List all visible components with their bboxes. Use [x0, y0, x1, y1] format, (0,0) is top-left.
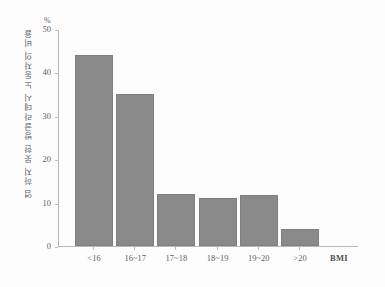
y-axis-tick-label: 50 — [43, 24, 52, 34]
y-axis-tick: 20 — [28, 160, 58, 161]
y-axis-tick-label: 10 — [43, 198, 52, 208]
x-axis-tick-mark — [134, 246, 135, 250]
x-axis-tick-mark — [217, 246, 218, 250]
bar-slot — [277, 30, 323, 246]
bar-series — [59, 30, 358, 246]
bar-slot — [71, 30, 117, 246]
y-axis-tick-mark — [55, 73, 58, 74]
y-axis-tick-label: 40 — [43, 67, 52, 77]
x-axis-tick-mark — [175, 246, 176, 250]
bar[interactable] — [199, 198, 237, 246]
y-axis-tick: 0 — [28, 247, 58, 248]
y-axis-tick-mark — [55, 204, 58, 205]
y-axis-tick-mark — [55, 117, 58, 118]
y-axis-tick: 40 — [28, 73, 58, 74]
y-axis-tick: 30 — [28, 117, 58, 118]
bar-slot — [112, 30, 158, 246]
x-axis-tick-label: >20 — [270, 253, 330, 263]
y-axis-tick: 10 — [28, 204, 58, 205]
y-axis-tick-label: 30 — [43, 111, 52, 121]
bar[interactable] — [157, 194, 195, 246]
bar[interactable] — [116, 94, 154, 246]
x-axis-tick-mark — [299, 246, 300, 250]
y-axis-label: 염 하지 못한 방글라데시 노동자의 비율 — [25, 28, 34, 198]
bar-slot — [236, 30, 282, 246]
x-axis-tick-mark — [258, 246, 259, 250]
y-axis-tick-mark — [55, 247, 58, 248]
bar-slot — [153, 30, 199, 246]
bar[interactable] — [75, 55, 113, 246]
y-axis-tick-mark — [55, 30, 58, 31]
bar[interactable] — [240, 195, 278, 246]
x-axis-title: BMI — [330, 253, 348, 263]
y-axis-tick: 50 — [28, 30, 58, 31]
x-axis-tick-mark — [93, 246, 94, 250]
bar-chart-figure: 염 하지 못한 방글라데시 노동자의 비율 % 01020304050 <161… — [0, 0, 385, 287]
bar[interactable] — [281, 229, 319, 246]
y-axis-label-container: 염 하지 못한 방글라데시 노동자의 비율 — [18, 28, 40, 218]
plot-area: 01020304050 — [58, 30, 358, 247]
x-axis-line — [58, 246, 358, 247]
y-axis-tick-mark — [55, 160, 58, 161]
y-axis-tick-label: 0 — [47, 241, 51, 251]
y-axis-tick-label: 20 — [43, 154, 52, 164]
bar-slot — [195, 30, 241, 246]
